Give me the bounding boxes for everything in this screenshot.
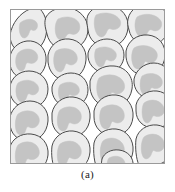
grain (136, 125, 165, 164)
microstructure-svg (10, 9, 165, 164)
grain (10, 134, 48, 164)
grain (52, 131, 90, 164)
figure-container: (a) (0, 0, 175, 192)
figure-caption: (a) (0, 168, 175, 180)
grain-layer (10, 9, 165, 164)
grain (136, 91, 165, 128)
microstructure-panel (10, 9, 165, 164)
